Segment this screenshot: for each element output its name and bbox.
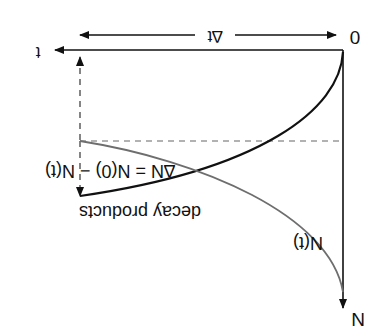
origin-label: 0	[350, 27, 361, 48]
n-axis-label: N	[351, 309, 365, 330]
delta-t-label: ∆t	[207, 27, 222, 46]
decay-diagram-svg: 0 t N ∆t ∆N = N(0) − N(t) decay products…	[0, 0, 378, 331]
delta-n-label: ∆N = N(0) − N(t)	[45, 161, 175, 181]
time-axis-label: t	[35, 43, 40, 62]
decay-products-label: decay products	[79, 202, 201, 222]
decay-diagram: 0 t N ∆t ∆N = N(0) − N(t) decay products…	[0, 0, 378, 331]
n-of-t-label: N(t)	[293, 233, 323, 253]
